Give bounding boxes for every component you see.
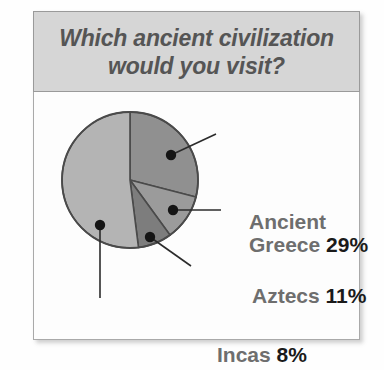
chart-title-line-1: Which ancient civilization bbox=[59, 24, 334, 52]
pie-value-ancient-greece: 29% bbox=[326, 233, 368, 256]
pie-label-incas: Incas 8% bbox=[217, 344, 307, 367]
chart-poster: Which ancient civilization would you vis… bbox=[0, 0, 384, 370]
pie-chart-area: Ancient Greece 29% Aztecs 11% Incas 8% A… bbox=[33, 92, 360, 340]
pie-label-aztecs-name: Aztecs bbox=[252, 284, 320, 307]
leader-dot-ancient-greece bbox=[166, 150, 176, 160]
chart-title-line-2: would you visit? bbox=[108, 52, 285, 80]
leader-line-incas bbox=[150, 237, 191, 266]
pie-value-aztecs: 11% bbox=[326, 284, 367, 307]
pie-label-ancient-greece-line-2: Greece bbox=[249, 233, 320, 256]
pie-label-aztecs: Aztecs 11% bbox=[252, 285, 366, 308]
pie-label-incas-name: Incas bbox=[217, 343, 271, 366]
pie-label-ancient-greece: Ancient Greece 29% bbox=[249, 211, 368, 256]
chart-title-banner: Which ancient civilization would you vis… bbox=[33, 11, 360, 92]
leader-dot-incas bbox=[145, 232, 155, 242]
pie-label-ancient-greece-line-1: Ancient bbox=[249, 210, 326, 233]
pie-value-incas: 8% bbox=[277, 343, 307, 366]
leader-dot-aztecs bbox=[168, 205, 178, 215]
leader-dot-ancient-egypt bbox=[95, 220, 105, 230]
